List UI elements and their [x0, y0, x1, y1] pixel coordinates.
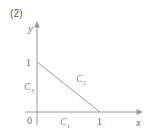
curve-label-c2: C2 [76, 73, 86, 86]
x-tick-label-1: 1 [97, 116, 102, 127]
curve-label-c1-subscript: 1 [67, 122, 70, 129]
figure-container: (2) y x 0 1 1 C1 C3 C2 [0, 0, 154, 137]
curve-c2-segment [37, 62, 100, 112]
y-axis-arrowhead [34, 21, 40, 28]
curve-label-c3: C3 [24, 81, 34, 94]
x-axis-label: x [135, 116, 141, 128]
coordinate-plot: y x 0 1 1 C1 C3 C2 [0, 0, 154, 137]
curve-label-c3-subscript: 3 [31, 87, 34, 94]
y-tick-label-1: 1 [26, 57, 31, 68]
curve-label-c1: C1 [60, 116, 70, 129]
x-axis-arrowhead [137, 109, 144, 115]
y-axis-label: y [27, 22, 33, 34]
curve-label-c2-subscript: 2 [83, 79, 86, 86]
origin-tick-label: 0 [27, 115, 32, 126]
